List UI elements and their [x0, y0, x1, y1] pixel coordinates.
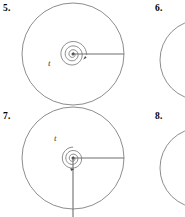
partial-circle-arc-8: [160, 118, 185, 217]
problem-number-7: 7.: [3, 112, 11, 122]
spiral-angle-diagram-7: t: [16, 108, 130, 217]
outer-circle: [160, 20, 185, 100]
figure-problem-7: t: [16, 108, 130, 217]
figure-problem-5: t: [16, 0, 130, 110]
problem-number-5: 5.: [3, 4, 11, 14]
spiral-center-dot: [72, 157, 75, 160]
rotation-arrowhead: [70, 168, 74, 171]
outer-circle: [160, 128, 185, 208]
spiral-center-dot: [72, 53, 75, 56]
partial-circle-arc-6: [160, 10, 185, 110]
rotation-arrowhead: [83, 56, 86, 60]
spiral-angle-diagram-5: t: [16, 0, 130, 110]
figure-problem-6: [160, 10, 185, 110]
figure-problem-8: [160, 118, 185, 217]
angle-label-t: t: [54, 133, 57, 143]
exercise-figure-page: 5. t 6. 7. t 8.: [0, 0, 185, 217]
angle-label-t: t: [48, 58, 51, 68]
